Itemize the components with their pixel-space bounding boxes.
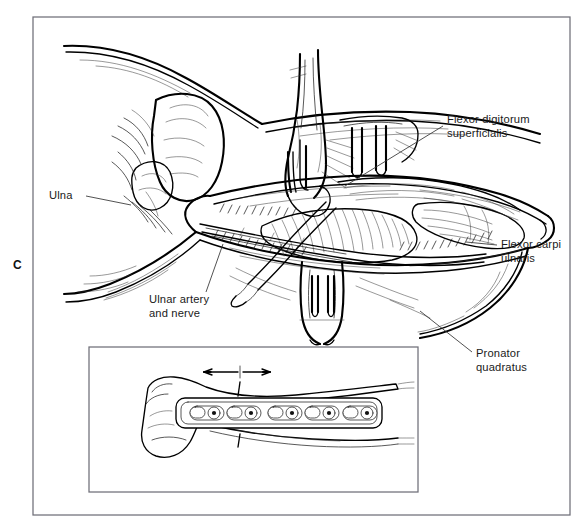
plate-fixation-inset <box>89 347 418 492</box>
screw-1 <box>190 406 224 420</box>
panel-letter: C <box>13 258 22 272</box>
screw-5 <box>343 406 377 420</box>
illustration-canvas: C <box>0 0 588 530</box>
medical-illustration-figure: C <box>0 0 588 530</box>
label-ulna: Ulna <box>49 189 73 201</box>
screw-2 <box>227 406 261 420</box>
screw-3 <box>268 406 302 420</box>
screw-4 <box>305 406 339 420</box>
plate-screws <box>190 406 377 420</box>
